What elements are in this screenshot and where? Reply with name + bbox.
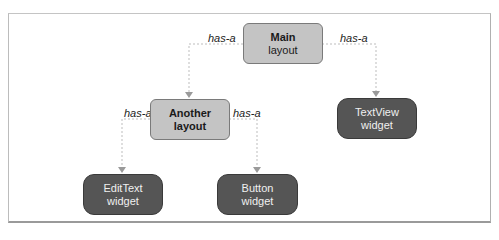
node-title: Main	[270, 31, 295, 44]
edge-main-another	[189, 44, 243, 92]
node-title: EditText	[103, 182, 142, 195]
edge-label-another-button: has-a	[233, 107, 261, 119]
edge-label-main-textview: has-a	[340, 32, 368, 44]
node-subtitle: layout	[268, 44, 297, 57]
node-subtitle: widget	[242, 195, 274, 208]
node-another-layout: Another layout	[150, 99, 230, 140]
arrowhead-icon	[185, 92, 193, 98]
node-subtitle: layout	[174, 120, 206, 133]
node-edittext-widget: EditText widget	[83, 174, 163, 215]
node-main-layout: Main layout	[243, 23, 323, 64]
node-subtitle: widget	[361, 119, 393, 132]
arrowhead-icon	[253, 167, 261, 173]
edge-label-another-edittext: has-a	[124, 107, 152, 119]
edge-main-textview	[322, 44, 376, 91]
arrowhead-icon	[118, 167, 126, 173]
node-title: Button	[242, 182, 274, 195]
edge-label-main-another: has-a	[208, 32, 236, 44]
edge-another-edittext	[122, 119, 150, 167]
node-title: Another	[169, 107, 211, 120]
arrowhead-icon	[372, 91, 380, 97]
node-subtitle: widget	[107, 195, 139, 208]
node-button-widget: Button widget	[217, 174, 298, 215]
node-textview-widget: TextView widget	[337, 98, 417, 139]
node-title: TextView	[355, 106, 399, 119]
edge-another-button	[229, 119, 257, 167]
